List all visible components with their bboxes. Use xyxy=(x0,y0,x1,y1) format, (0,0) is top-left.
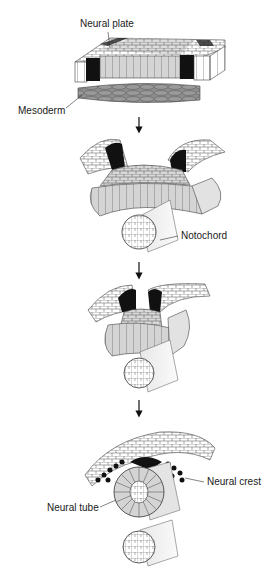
label-neural-crest: Neural crest xyxy=(207,477,261,487)
stage-1-mesoderm xyxy=(78,83,200,102)
label-mesoderm: Mesoderm xyxy=(18,106,65,116)
label-notochord: Notochord xyxy=(181,231,227,241)
stage-4-neural-tube xyxy=(114,462,180,520)
neural-tube-leader xyxy=(100,500,116,507)
label-neural-tube: Neural tube xyxy=(47,503,99,513)
label-neural-plate: Neural plate xyxy=(80,19,134,29)
stage-3-converging-folds xyxy=(88,284,210,356)
neural-crest-leader xyxy=(185,478,204,482)
stage-1-neural-plate xyxy=(75,38,225,82)
stage-2-neural-folds xyxy=(80,139,225,216)
stage-4-notochord xyxy=(123,520,178,566)
mesoderm-leader xyxy=(66,95,82,108)
neurulation-diagram xyxy=(0,0,277,575)
